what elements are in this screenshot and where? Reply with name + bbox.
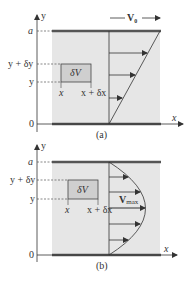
label-y: y bbox=[29, 76, 34, 87]
element-label: δV bbox=[70, 67, 83, 78]
x-axis-label: x bbox=[163, 243, 169, 254]
panel-a: V0 y x a y + δy y 0 x x + δx δV (a) bbox=[8, 10, 183, 141]
y-axis-label: y bbox=[41, 10, 46, 21]
caption-b: (b) bbox=[96, 260, 108, 272]
panel-b: Vmax y x a y + δy y 0 x x + δx δV (b) bbox=[10, 140, 177, 272]
label-y: y bbox=[30, 193, 35, 204]
label-x-plus-dx: x + δx bbox=[81, 87, 106, 98]
caption-a: (a) bbox=[96, 129, 107, 141]
label-y-plus-dy: y + δy bbox=[8, 58, 33, 69]
label-x-plus-dx: x + δx bbox=[87, 204, 112, 215]
label-x: x bbox=[58, 87, 64, 98]
label-a: a bbox=[28, 25, 33, 36]
y-axis-label: y bbox=[41, 140, 46, 151]
label-a: a bbox=[28, 156, 33, 167]
label-zero: 0 bbox=[29, 118, 34, 129]
x-axis-label: x bbox=[171, 112, 177, 123]
element-label: δV bbox=[77, 184, 90, 195]
label-y-plus-dy: y + δy bbox=[10, 174, 35, 185]
flow-diagram: V0 y x a y + δy y 0 x x + δx δV (a) Vmax… bbox=[0, 0, 187, 286]
label-x: x bbox=[64, 204, 70, 215]
v0-label: V0 bbox=[127, 12, 137, 24]
label-zero: 0 bbox=[29, 249, 34, 260]
